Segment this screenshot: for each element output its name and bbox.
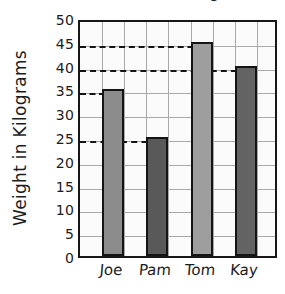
bar-pam xyxy=(146,137,168,256)
chart-title: g xyxy=(149,0,280,2)
x-axis-tick-labels: JoePamTomKay xyxy=(78,261,277,287)
y-tick-label: 0 xyxy=(65,250,74,266)
x-tick-label-pam: Pam xyxy=(138,261,172,279)
y-tick-label: 5 xyxy=(65,226,74,242)
y-tick-label: 25 xyxy=(56,131,74,147)
bars-group xyxy=(80,22,275,256)
y-tick-label: 10 xyxy=(56,202,74,218)
bar-chart-figure: g Weight in Kilograms 051015202530354045… xyxy=(0,0,285,294)
bar-kay xyxy=(235,66,257,256)
y-tick-label: 20 xyxy=(56,154,74,170)
y-tick-label: 15 xyxy=(56,178,74,194)
y-axis-title: Weight in Kilograms xyxy=(10,13,30,263)
y-tick-label: 35 xyxy=(56,83,74,99)
x-tick-label-tom: Tom xyxy=(184,261,216,279)
bar-joe xyxy=(102,89,124,256)
y-tick-label: 30 xyxy=(56,107,74,123)
y-tick-label: 50 xyxy=(56,12,74,28)
y-tick-label: 40 xyxy=(56,59,74,75)
x-tick-label-joe: Joe xyxy=(99,261,123,279)
x-tick-label-kay: Kay xyxy=(229,261,258,279)
bar-tom xyxy=(191,42,213,256)
plot-area xyxy=(78,20,277,258)
y-axis-tick-labels: 05101520253035404550 xyxy=(42,20,74,258)
y-tick-label: 45 xyxy=(56,35,74,51)
